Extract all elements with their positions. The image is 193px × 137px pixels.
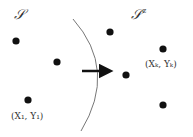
set-sc-label: 𝒮c xyxy=(131,6,147,22)
point-x1y1-label: (X₁, Y₁) xyxy=(11,111,43,121)
set-s-label: 𝒮 xyxy=(14,6,29,22)
point-xkyk xyxy=(159,45,166,52)
set-boundary-curve xyxy=(73,19,98,131)
set-partition-diagram: 𝒮 𝒮c (X₁, Y₁) (Xₖ, Yₖ) xyxy=(0,0,193,137)
point-right-3 xyxy=(159,101,166,108)
point-left-1 xyxy=(12,37,19,44)
point-xkyk-label: (Xₖ, Yₖ) xyxy=(145,59,177,69)
point-left-2 xyxy=(53,58,60,65)
point-right-2 xyxy=(122,71,129,78)
point-right-1 xyxy=(106,28,113,35)
point-x1y1 xyxy=(24,96,31,103)
